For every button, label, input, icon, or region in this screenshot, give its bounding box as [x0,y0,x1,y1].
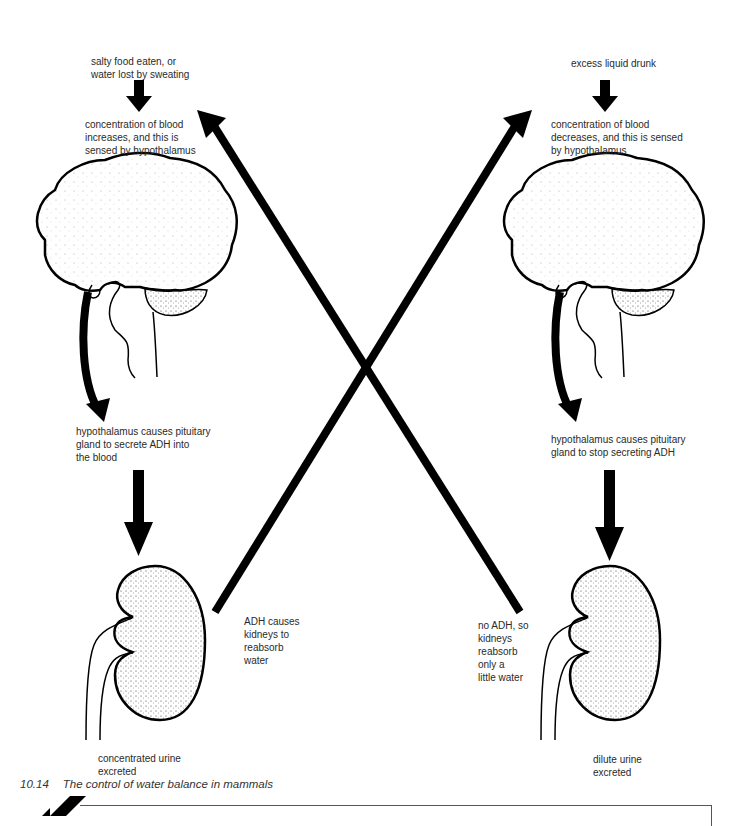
arrow-trigger-to-sensing-left-icon [126,80,152,112]
left-outcome-label: concentrated urine excreted [98,752,181,778]
right-kidney-action-label: no ADH, so kidneys reabsorb only a littl… [478,619,529,684]
figure-title: The control of water balance in mammals [63,778,273,790]
left-pituitary-label: hypothalamus causes pituitary gland to s… [76,425,211,464]
left-brain-icon [37,153,237,378]
content-box-edge [80,805,712,826]
arrow-trigger-to-sensing-right-icon [592,80,618,112]
arrow-pituitary-to-kidney-right-icon [595,470,624,561]
right-sensing-label: concentration of blood decreases, and th… [551,118,683,157]
figure-caption: 10.14The control of water balance in mam… [20,778,273,790]
left-trigger-label: salty food eaten, or water lost by sweat… [91,55,189,81]
figure-number: 10.14 [20,778,49,790]
right-trigger-label: excess liquid drunk [571,57,656,70]
feedback-arrow-no-adh-to-left-sensing-icon [197,110,520,612]
left-kidney-icon [86,566,205,740]
right-brain-icon [504,153,704,378]
arrow-pituitary-to-kidney-left-icon [124,470,153,556]
curved-arrow-left-icon [83,292,110,422]
left-kidney-action-label: ADH causes kidneys to reabsorb water [244,615,300,667]
right-kidney-icon [541,566,660,740]
feedback-arrow-adh-to-right-sensing-icon [215,110,532,612]
curved-arrow-right-icon [555,292,582,422]
section-corner-badge-icon [40,796,90,816]
left-sensing-label: concentration of blood increases, and th… [85,118,196,157]
right-outcome-label: dilute urine excreted [593,753,642,779]
right-pituitary-label: hypothalamus causes pituitary gland to s… [551,433,686,459]
